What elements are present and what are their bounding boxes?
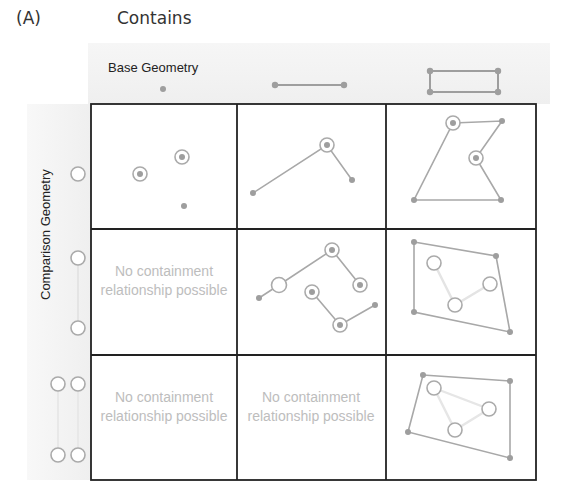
line-icon (272, 82, 347, 88)
cell-polygon-in-point-text: No containment relationship possible (91, 388, 237, 426)
point-icon (160, 86, 166, 92)
cell-line-in-point-text: No containment relationship possible (91, 262, 237, 300)
point-outline-icon (71, 167, 85, 181)
polygon-icon (427, 68, 501, 95)
cell-polygon-in-line-text: No containment relationship possible (238, 388, 384, 426)
line-outline-icon (71, 251, 85, 335)
polygon-outline-icon (51, 377, 85, 462)
